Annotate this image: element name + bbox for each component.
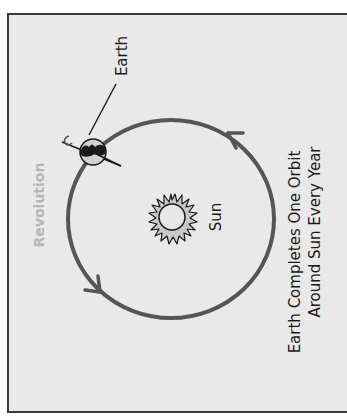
caption-line-1: Earth Completes One Orbit: [286, 151, 304, 354]
caption-line-2: Around Sun Every Year: [306, 146, 324, 318]
rotation-arrow-icon: [65, 136, 73, 145]
sun-label: Sun: [207, 203, 225, 232]
sun-icon: [149, 194, 197, 244]
earth-label: Earth: [113, 36, 131, 76]
revolution-label: Revolution: [31, 163, 47, 248]
earth-pointer-line: [89, 84, 116, 135]
